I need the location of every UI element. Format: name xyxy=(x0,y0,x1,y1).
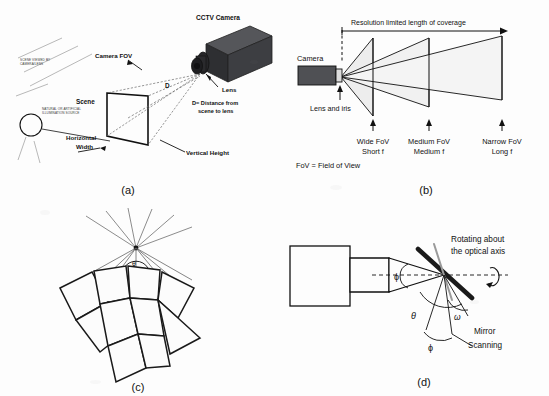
coverage-label: Resolution limited length of coverage xyxy=(351,19,466,27)
theta-label-d: θ xyxy=(411,311,416,321)
fov-stop-1-name: Medium FoV xyxy=(408,137,450,146)
distance-note-line2: scene to lens xyxy=(198,108,233,114)
fov-stop-1-focal: Medium f xyxy=(414,147,445,156)
fov-stop-arrows xyxy=(370,119,505,131)
width-arrow-head xyxy=(100,146,106,151)
panel-d-caption: (d) xyxy=(417,376,430,388)
rotating-label-line2: the optical axis xyxy=(451,247,505,256)
scan-artifact xyxy=(330,185,342,190)
fov-stop-2-focal: Long f xyxy=(492,147,513,156)
horizontal-width-line1: Horizontal xyxy=(66,134,97,141)
scan-artifact xyxy=(470,300,479,304)
rotation-arrow-head xyxy=(486,282,493,288)
camera-body-d xyxy=(290,246,350,306)
illumination-label-line2: ILLUMINATION SOURCE xyxy=(42,111,79,115)
camera-lens xyxy=(192,52,210,74)
horizontal-width-line2: Width xyxy=(76,143,93,150)
mirror-label: Mirror xyxy=(474,327,496,336)
fan-rays xyxy=(86,208,192,248)
omega-arc xyxy=(448,300,468,310)
cctv-camera-body xyxy=(206,26,272,82)
fov-stop-0-focal: Short f xyxy=(362,147,385,156)
coverage-arrow xyxy=(342,27,504,35)
panel-c-caption: (c) xyxy=(132,381,145,393)
phi-lower-label-d: ϕ xyxy=(428,343,433,353)
fov-stop-0-name: Wide FoV xyxy=(357,137,390,146)
panel-a: SCENE VIEWED BY CAMERA/LENS NATURAL OR A… xyxy=(0,0,280,200)
fov-stop-2-name: Narrow FoV xyxy=(482,137,521,146)
figure-canvas: SCENE VIEWED BY CAMERA/LENS NATURAL OR A… xyxy=(0,0,549,396)
lens-and-iris-block xyxy=(336,69,342,82)
scan-artifact xyxy=(250,60,258,64)
scene-plane xyxy=(107,93,148,145)
distance-symbol-label: D xyxy=(165,82,170,89)
camera-fov-label: Camera FOV xyxy=(95,52,133,59)
panel-b-caption: (b) xyxy=(419,184,432,196)
panel-c-drawing: θ ϕ (c) xyxy=(20,196,290,396)
distance-note-line1: D= Distance from xyxy=(192,100,238,106)
cctv-camera-label: CCTV Camera xyxy=(196,14,240,21)
phi-axis-label-d: ϕ xyxy=(394,272,399,282)
vertical-height-label: Vertical Height xyxy=(186,149,229,156)
panel-b: Resolution limited length of coverage Ca… xyxy=(276,0,549,200)
lens-barrel xyxy=(350,258,389,292)
panel-a-caption: (a) xyxy=(121,184,134,196)
coverage-arrow-head xyxy=(500,28,508,35)
scene-viewed-label-line2: CAMERA/LENS xyxy=(20,62,43,66)
panel-d-drawing: ϕ θ ω ϕ Rotating xyxy=(276,196,549,396)
mirror-secondary-ray xyxy=(434,244,452,300)
distance-line xyxy=(128,76,200,118)
fov-cones xyxy=(341,36,502,116)
scan-artifact xyxy=(90,380,101,384)
fov-definition-label: FoV = Field of View xyxy=(296,161,361,170)
phi-lower-arc xyxy=(424,332,452,341)
lens-and-iris-label: Lens and iris xyxy=(310,104,351,113)
camera-body xyxy=(298,66,336,85)
illumination-source-icon xyxy=(20,114,42,136)
panel-c: θ ϕ (c) xyxy=(20,196,290,396)
scan-artifact xyxy=(40,210,50,215)
panel-b-drawing: Resolution limited length of coverage Ca… xyxy=(276,0,549,200)
scanning-label: Scanning xyxy=(468,341,503,350)
lens-label: Lens xyxy=(222,86,237,93)
rotating-label-line1: Rotating about xyxy=(451,235,505,244)
rotation-curl-icon xyxy=(488,268,499,286)
omega-label-d: ω xyxy=(454,312,461,322)
scene-label: Scene xyxy=(76,98,95,105)
lens-iris-arrow-head xyxy=(337,85,343,92)
panel-d: ϕ θ ω ϕ Rotating xyxy=(276,196,549,396)
panel-a-drawing: SCENE VIEWED BY CAMERA/LENS NATURAL OR A… xyxy=(0,0,280,200)
camera-fov-lines xyxy=(107,74,200,145)
camera-label-b: Camera xyxy=(297,54,324,63)
lens-arrow-head xyxy=(206,74,211,81)
